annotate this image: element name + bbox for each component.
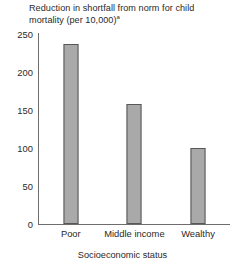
x-axis-title: Socioeconomic status [0, 250, 245, 260]
chart-title: Reduction in shortfall from norm for chi… [29, 3, 237, 26]
bar-slot [103, 34, 167, 224]
y-axis-tick-label: 200 [0, 67, 33, 78]
y-axis-tick-label: 100 [0, 143, 33, 154]
chart-title-footnote-marker: a [117, 14, 120, 20]
bar-wealthy[interactable] [190, 148, 205, 224]
chart-title-line-2: mortality (per 10,000) [29, 15, 117, 25]
chart-figure: Reduction in shortfall from norm for chi… [0, 0, 245, 269]
bar-slot [39, 34, 103, 224]
x-axis-category-label: Poor [39, 228, 103, 239]
chart-title-line-1: Reduction in shortfall from norm for chi… [29, 3, 194, 13]
x-axis-category-labels: Poor Middle income Wealthy [39, 228, 230, 244]
x-axis-category-label: Wealthy [166, 228, 230, 239]
y-axis-tick-label: 50 [0, 181, 33, 192]
y-axis-tick-label: 250 [0, 29, 33, 40]
plot-area [39, 34, 230, 224]
bar-slot [166, 34, 230, 224]
y-axis-tick-label: 150 [0, 105, 33, 116]
x-axis-category-label: Middle income [103, 228, 167, 239]
y-axis-tick-labels: 250 200 150 100 50 0 [0, 0, 33, 269]
bar-middle-income[interactable] [127, 104, 142, 224]
y-axis-tick-label: 0 [0, 219, 33, 230]
x-axis-line [38, 224, 230, 225]
bar-poor[interactable] [63, 44, 78, 224]
